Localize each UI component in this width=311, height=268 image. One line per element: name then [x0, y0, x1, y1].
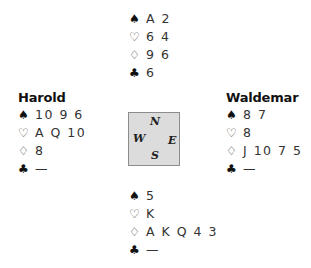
west-diamonds: 8	[35, 142, 44, 160]
east-hand: Waldemar ♠ 8 7 ♡ 8 ♢ J 10 7 5 ♣ —	[226, 89, 302, 178]
east-diamonds-row: ♢ J 10 7 5	[226, 142, 302, 160]
heart-icon: ♡	[18, 124, 35, 142]
east-spades-row: ♠ 8 7	[226, 106, 302, 124]
club-icon: ♣	[129, 241, 146, 259]
south-hearts-row: ♡ K	[129, 205, 218, 223]
north-hearts: 6 4	[146, 28, 170, 46]
spade-icon: ♠	[18, 106, 35, 124]
south-clubs: —	[146, 241, 160, 259]
north-clubs: 6	[146, 64, 155, 82]
west-spades-row: ♠ 10 9 6	[18, 106, 86, 124]
west-player-name: Harold	[18, 89, 86, 106]
club-icon: ♣	[226, 160, 243, 178]
diamond-icon: ♢	[129, 223, 146, 241]
north-clubs-row: ♣ 6	[129, 64, 171, 82]
diamond-icon: ♢	[226, 142, 243, 160]
north-hearts-row: ♡ 6 4	[129, 28, 171, 46]
east-player-name: Waldemar	[226, 89, 302, 106]
spade-icon: ♠	[129, 10, 146, 28]
club-icon: ♣	[129, 64, 146, 82]
compass-west-label: W	[133, 132, 145, 145]
south-hand: ♠ 5 ♡ K ♢ A K Q 4 3 ♣ —	[129, 187, 218, 259]
heart-icon: ♡	[226, 124, 243, 142]
east-hearts: 8	[243, 124, 252, 142]
club-icon: ♣	[18, 160, 35, 178]
east-clubs: —	[243, 160, 257, 178]
diamond-icon: ♢	[18, 142, 35, 160]
north-spades-row: ♠ A 2	[129, 10, 171, 28]
south-diamonds: A K Q 4 3	[146, 223, 218, 241]
south-spades: 5	[146, 187, 155, 205]
south-clubs-row: ♣ —	[129, 241, 218, 259]
compass-box: N W E S	[128, 112, 180, 166]
heart-icon: ♡	[129, 28, 146, 46]
diamond-icon: ♢	[129, 46, 146, 64]
west-hearts-row: ♡ A Q 10	[18, 124, 86, 142]
east-diamonds: J 10 7 5	[243, 142, 302, 160]
west-spades: 10 9 6	[35, 106, 84, 124]
south-diamonds-row: ♢ A K Q 4 3	[129, 223, 218, 241]
north-diamonds: 9 6	[146, 46, 170, 64]
west-clubs: —	[35, 160, 49, 178]
north-diamonds-row: ♢ 9 6	[129, 46, 171, 64]
north-hand: ♠ A 2 ♡ 6 4 ♢ 9 6 ♣ 6	[129, 10, 171, 82]
west-hearts: A Q 10	[35, 124, 86, 142]
south-spades-row: ♠ 5	[129, 187, 218, 205]
compass-north-label: N	[150, 115, 160, 128]
spade-icon: ♠	[226, 106, 243, 124]
east-clubs-row: ♣ —	[226, 160, 302, 178]
east-spades: 8 7	[243, 106, 267, 124]
west-hand: Harold ♠ 10 9 6 ♡ A Q 10 ♢ 8 ♣ —	[18, 89, 86, 178]
north-spades: A 2	[146, 10, 171, 28]
compass-south-label: S	[151, 149, 159, 162]
spade-icon: ♠	[129, 187, 146, 205]
south-hearts: K	[146, 205, 156, 223]
east-hearts-row: ♡ 8	[226, 124, 302, 142]
compass-east-label: E	[168, 134, 176, 147]
west-diamonds-row: ♢ 8	[18, 142, 86, 160]
heart-icon: ♡	[129, 205, 146, 223]
west-clubs-row: ♣ —	[18, 160, 86, 178]
